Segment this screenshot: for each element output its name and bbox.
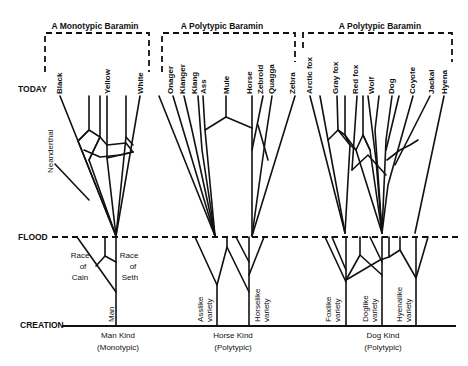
svg-text:Hyenalike: Hyenalike [395,286,404,322]
dog-kind-label: Dog Kind [367,331,400,340]
dog-kind-type: (Polytypic) [364,343,402,352]
today-label: TODAY [18,84,47,94]
species-arctic-fox: Arctic fox [305,57,314,94]
species-coyote: Coyote [408,66,417,94]
svg-text:Doglike: Doglike [361,295,370,322]
species-kianger: Kianger [178,64,187,94]
dog-kind-today-labels: Arctic fox Gray fox Red fox Wolf Dog Coy… [305,57,449,94]
species-quagga: Quagga [267,64,276,94]
box-label-monotypic: A Monotypic Baramin [51,21,138,31]
horse-kind-label: Horse Kind [213,331,253,340]
species-red-fox: Red fox [351,64,360,94]
species-kiang: Kiang [190,72,199,94]
box-label-polytypic-dog: A Polytypic Baramin [339,21,421,31]
species-mule: Mule [222,75,231,94]
neanderthal-label: Neanderthal [46,129,55,173]
svg-text:variety: variety [404,298,413,322]
hyenalike-variety-label: Hyenalike variety [395,286,413,322]
species-white: White [136,72,145,94]
svg-text:Horselike: Horselike [253,288,262,322]
species-black: Black [55,72,64,94]
species-wolf: Wolf [367,76,376,94]
man-kind-today-labels: Black Yellow White [55,68,145,94]
species-horse: Horse [245,71,254,94]
svg-text:variety: variety [205,298,214,322]
flood-label: FLOOD [18,232,48,242]
species-gray-fox: Gray fox [331,61,340,94]
species-jackal: Jackal [427,70,436,94]
baramin-box-man: A Monotypic Baramin [45,21,149,72]
horse-kind-today-labels: Onager Kianger Kiang Ass Mule Horse Zebr… [166,64,297,94]
horse-kind-type: (Polytypic) [214,343,252,352]
svg-text:variety: variety [262,298,271,322]
race-of-cain-label: Race of Cain [71,251,90,282]
man-kind-label: Man Kind [101,331,135,340]
baramin-diagram: TODAY FLOOD CREATION A Monotypic Baramin… [0,0,468,366]
svg-text:Asslike: Asslike [196,296,205,322]
svg-text:Foxlike: Foxlike [324,296,333,322]
species-yellow: Yellow [103,68,112,94]
creation-label: CREATION [20,320,64,330]
svg-text:of: of [80,262,87,271]
species-ass: Ass [199,79,208,94]
svg-text:variety: variety [333,298,342,322]
baramin-box-dog: A Polytypic Baramin [303,21,452,62]
species-zebra: Zebra [288,72,297,94]
species-hyena: Hyena [440,69,449,94]
man-root-label: Man [107,306,116,322]
svg-text:Cain: Cain [72,273,88,282]
species-zebroid: Zebroid [256,65,265,94]
box-label-polytypic-horse: A Polytypic Baramin [181,21,263,31]
asslike-variety-label: Asslike variety [196,296,214,322]
svg-text:of: of [130,262,137,271]
species-onager: Onager [166,66,175,94]
foxlike-variety-label: Foxlike variety [324,296,342,322]
man-kind-tree [55,96,140,326]
svg-text:variety: variety [370,298,379,322]
race-of-seth-label: Race of Seth [120,251,139,282]
svg-text:Race: Race [71,251,90,260]
horse-kind-tree [159,96,295,326]
svg-text:Seth: Seth [122,273,138,282]
horselike-variety-label: Horselike variety [253,288,271,322]
doglike-variety-label: Doglike variety [361,295,379,322]
svg-text:Race: Race [120,251,139,260]
dog-kind-tree [310,96,444,326]
species-dog: Dog [387,78,396,94]
man-kind-type: (Monotypic) [97,343,139,352]
